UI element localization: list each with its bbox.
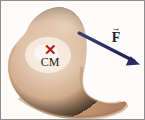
rigid-body-group [8, 7, 128, 119]
force-vector-arrow [79, 33, 140, 66]
rigid-body-highlight-core [34, 44, 58, 62]
force-vector-shaft [79, 33, 134, 61]
physics-figure: ✕ CM → F [0, 0, 145, 120]
figure-canvas [1, 1, 145, 120]
